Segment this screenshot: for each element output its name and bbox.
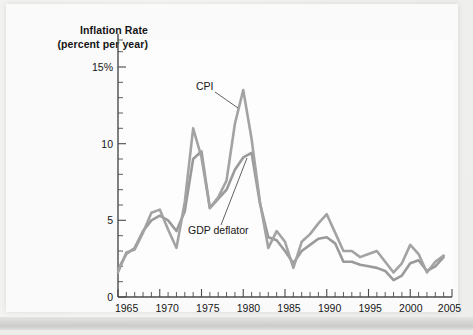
gdp-annotation-label: GDP deflator — [188, 224, 249, 236]
cpi-leader-line — [215, 92, 238, 108]
figure-page: Inflation Rate (percent per year) — [0, 0, 473, 335]
x-tick-label-1970: 1970 — [156, 302, 180, 314]
x-tick-label-2005: 2005 — [438, 302, 462, 314]
x-tick-label-1965: 1965 — [115, 302, 139, 314]
y-tick-label-5: 5 — [107, 214, 113, 226]
y-tick-label-10: 10 — [101, 138, 113, 150]
x-tick-label-1990: 1990 — [318, 302, 342, 314]
y-tick-label-0: 0 — [107, 291, 113, 303]
y-tick-labels: 0 5 10 15% — [92, 61, 113, 303]
y-axis-minor-ticks — [118, 40, 123, 282]
axes-group — [118, 34, 452, 297]
cpi-annotation-label: CPI — [196, 80, 214, 92]
series-line-gdp-deflator — [118, 151, 444, 280]
x-tick-label-1995: 1995 — [359, 302, 383, 314]
x-tick-label-1980: 1980 — [237, 302, 261, 314]
inflation-line-chart: 0 5 10 15% 1965 1970 1975 1980 1985 1990… — [0, 0, 473, 335]
x-tick-label-2000: 2000 — [399, 302, 423, 314]
x-tick-labels: 1965 1970 1975 1980 1985 1990 1995 2000 … — [115, 302, 461, 314]
y-tick-label-15: 15% — [92, 61, 113, 73]
x-tick-label-1985: 1985 — [277, 302, 301, 314]
x-tick-label-1975: 1975 — [196, 302, 220, 314]
